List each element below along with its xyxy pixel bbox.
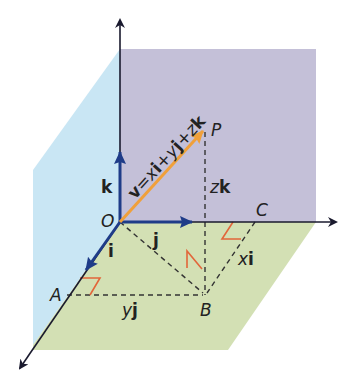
component-label-yj: yj <box>121 300 138 320</box>
unit-label-k: k <box>101 177 113 197</box>
component-label-xi: xi <box>237 249 254 269</box>
point-label-O: O <box>101 211 114 231</box>
vector-diagram: O P A B C k j i zk xi yj v=xi+yj+zk <box>0 0 348 379</box>
point-label-A: A <box>49 285 62 305</box>
component-label-zk: zk <box>209 177 231 197</box>
unit-label-i: i <box>108 241 114 261</box>
unit-label-j: j <box>152 230 159 250</box>
point-label-C: C <box>256 200 268 220</box>
point-label-B: B <box>200 300 212 320</box>
point-label-P: P <box>211 120 222 140</box>
